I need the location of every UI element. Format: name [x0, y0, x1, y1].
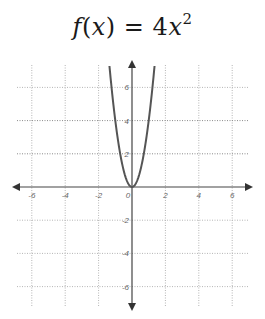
- x-tick-label: -4: [62, 191, 70, 200]
- y-tick-label: 2: [124, 150, 130, 159]
- x-tick-label: 2: [162, 191, 168, 200]
- x-tick-label: -2: [95, 191, 103, 200]
- y-tick-label: 4: [125, 117, 130, 126]
- grid-lines: [17, 65, 249, 306]
- y-tick-label: -6: [122, 283, 130, 292]
- x-tick-label: 6: [230, 191, 235, 200]
- x-tick-label: -6: [28, 191, 36, 200]
- y-tick-label: -2: [122, 216, 130, 225]
- plot-area: -6-4-20246642-2-4-6: [0, 0, 265, 319]
- x-tick-label: 0: [126, 191, 131, 200]
- y-tick-label: -4: [122, 249, 130, 258]
- y-tick-label: 6: [125, 83, 130, 92]
- x-tick-label: 4: [197, 191, 202, 200]
